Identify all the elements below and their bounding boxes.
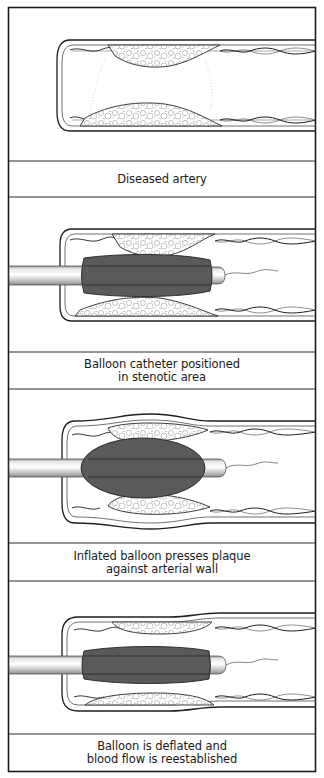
plaque-bottom [80, 103, 222, 126]
panel-2-illustration [9, 229, 316, 321]
catheter-shaft [9, 656, 89, 674]
caption-line: against arterial wall [106, 563, 218, 576]
guidewire [226, 462, 278, 468]
caption-line: in stenotic area [118, 371, 206, 384]
caption-line: blood flow is reestablished [87, 753, 238, 766]
caption-balloon-deflated: Balloon is deflated and blood flow is re… [9, 735, 315, 771]
intima-top [70, 47, 115, 51]
caption-diseased-artery: Diseased artery [9, 162, 315, 197]
plaque-flattened-bottom [85, 693, 214, 705]
panel-4-illustration [9, 613, 316, 711]
caption-line: Diseased artery [117, 173, 207, 186]
caption-line: Inflated balloon presses plaque [74, 550, 251, 563]
balloon-deflated-in-position [82, 254, 213, 296]
balloon-deflated [82, 647, 211, 684]
plaque-bottom [75, 297, 218, 316]
panel-1-illustration [57, 40, 316, 131]
plaque-top [108, 45, 220, 67]
plaque-top [112, 234, 215, 256]
catheter-shaft [9, 266, 89, 285]
guidewire [225, 270, 278, 275]
angioplasty-diagram [0, 0, 324, 778]
plaque-flattened-top [112, 622, 212, 634]
caption-balloon-inflated: Inflated balloon presses plaque against … [9, 544, 315, 581]
panel-3-illustration [9, 414, 316, 529]
catheter-shaft [9, 459, 89, 477]
guidewire [226, 659, 278, 665]
caption-balloon-positioned: Balloon catheter positioned in stenotic … [9, 353, 315, 389]
balloon-inflated [81, 438, 205, 498]
